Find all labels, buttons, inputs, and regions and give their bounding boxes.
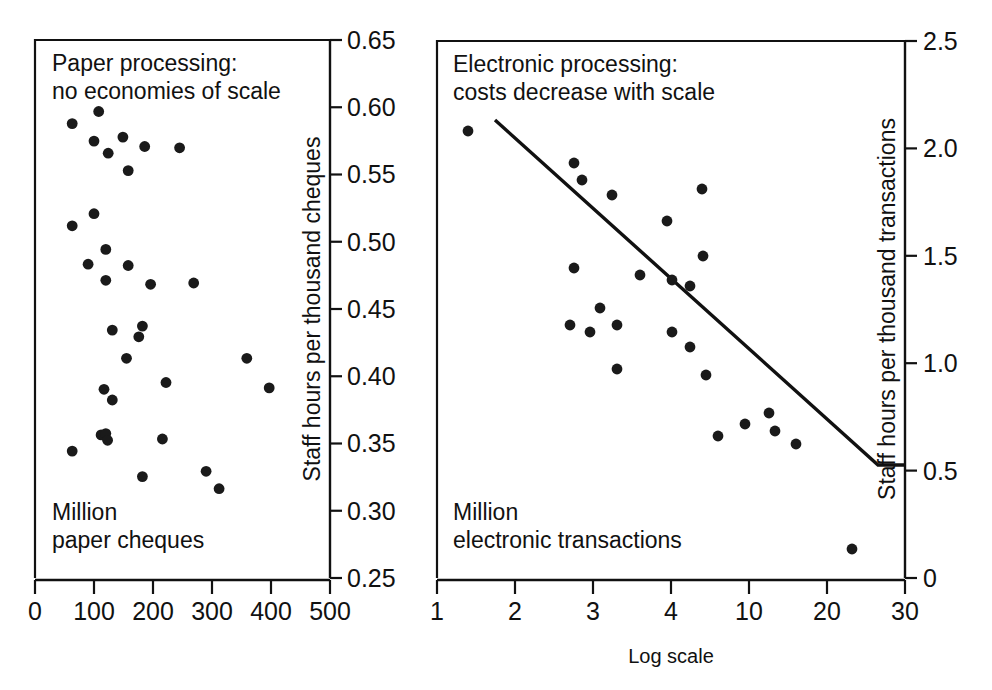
- right-y-tick-label: 1.0: [923, 349, 958, 377]
- data-point: [67, 220, 78, 231]
- left-y-axis-title: Staff hours per thousand cheques: [299, 137, 325, 482]
- data-point: [107, 325, 118, 336]
- left-x-tick-label: 500: [309, 597, 351, 625]
- data-point: [764, 408, 775, 419]
- left-y-tick-label: 0.60: [347, 93, 396, 121]
- data-point: [847, 544, 858, 555]
- data-point: [161, 377, 172, 388]
- data-point: [241, 353, 252, 364]
- data-point: [121, 353, 132, 364]
- data-point: [264, 383, 275, 394]
- data-point: [67, 446, 78, 457]
- data-point: [569, 158, 580, 169]
- data-point: [83, 259, 94, 270]
- data-point: [89, 136, 100, 147]
- data-point: [188, 278, 199, 289]
- right-x-tick-label: 4: [664, 597, 678, 625]
- data-point: [133, 331, 144, 342]
- data-point: [118, 132, 129, 143]
- data-point: [201, 466, 212, 477]
- figure-x-axis-caption: Log scale: [628, 645, 714, 667]
- data-point: [107, 395, 118, 406]
- data-point: [123, 165, 134, 176]
- left-y-tick-label: 0.25: [347, 564, 396, 592]
- data-point: [685, 342, 696, 353]
- data-point: [100, 244, 111, 255]
- data-point: [791, 439, 802, 450]
- right-x-tick-label: 10: [735, 597, 763, 625]
- left-corner-note-line2: paper cheques: [52, 527, 204, 553]
- left-y-tick-label: 0.30: [347, 497, 396, 525]
- right-y-tick-label: 1.5: [923, 242, 958, 270]
- two-panel-scatter-figure: 0.65 0.60 0.55 0.50 0.45 0.40 0.35 0.30 …: [0, 0, 992, 690]
- left-y-tick-label: 0.50: [347, 228, 396, 256]
- data-point: [612, 364, 623, 375]
- left-x-tick-label: 400: [250, 597, 292, 625]
- right-corner-note-line1: Million: [453, 499, 518, 525]
- data-point: [607, 190, 618, 201]
- data-point: [145, 279, 156, 290]
- right-x-tick-label: 1: [430, 597, 444, 625]
- left-x-tick-label: 0: [28, 597, 42, 625]
- right-x-tick-label: 3: [586, 597, 600, 625]
- right-corner-note-line2: electronic transactions: [453, 527, 682, 553]
- data-point: [123, 260, 134, 271]
- left-x-tick-label: 300: [191, 597, 233, 625]
- right-y-tick-label: 0: [923, 564, 937, 592]
- data-point: [595, 303, 606, 314]
- figure-container: 0.65 0.60 0.55 0.50 0.45 0.40 0.35 0.30 …: [0, 0, 992, 690]
- data-point: [67, 118, 78, 129]
- right-y-axis-title: Staff hours per thousand transactions: [874, 118, 900, 500]
- right-x-tick-label: 2: [508, 597, 522, 625]
- data-point: [577, 175, 588, 186]
- data-point: [103, 148, 114, 159]
- left-panel-note-line1: Paper processing:: [52, 50, 237, 76]
- left-x-tick-label: 200: [132, 597, 174, 625]
- left-y-tick-label: 0.45: [347, 295, 396, 323]
- data-point: [698, 251, 709, 262]
- data-point: [102, 435, 113, 446]
- data-point: [667, 275, 678, 286]
- left-y-tick-label: 0.65: [347, 26, 396, 54]
- data-point: [463, 126, 474, 137]
- data-point: [214, 483, 225, 494]
- data-point: [137, 471, 148, 482]
- data-point: [635, 270, 646, 281]
- right-y-tick-label: 0.5: [923, 457, 958, 485]
- data-point: [100, 275, 111, 286]
- data-point: [89, 208, 100, 219]
- data-point: [685, 281, 696, 292]
- left-y-tick-label: 0.55: [347, 160, 396, 188]
- right-x-tick-label: 20: [813, 597, 841, 625]
- data-point: [697, 184, 708, 195]
- data-point: [701, 370, 712, 381]
- left-x-tick-label: 100: [73, 597, 115, 625]
- left-corner-note-line1: Million: [52, 499, 117, 525]
- right-x-tick-label: 30: [891, 597, 919, 625]
- data-point: [713, 431, 724, 442]
- data-point: [770, 426, 781, 437]
- left-panel-note-line2: no economies of scale: [52, 78, 281, 104]
- data-point: [565, 320, 576, 331]
- data-point: [569, 263, 580, 274]
- right-y-tick-label: 2.0: [923, 134, 958, 162]
- right-panel-note-line1: Electronic processing:: [453, 51, 678, 77]
- data-point: [585, 327, 596, 338]
- left-y-tick-label: 0.35: [347, 429, 396, 457]
- right-y-tick-label: 2.5: [923, 27, 958, 55]
- right-panel-note-line2: costs decrease with scale: [453, 79, 715, 105]
- data-point: [157, 434, 168, 445]
- data-point: [139, 141, 150, 152]
- data-point: [662, 216, 673, 227]
- left-y-tick-label: 0.40: [347, 362, 396, 390]
- data-point: [174, 142, 185, 153]
- data-point: [137, 321, 148, 332]
- data-point: [667, 327, 678, 338]
- data-point: [93, 106, 104, 117]
- data-point: [99, 384, 110, 395]
- data-point: [740, 419, 751, 430]
- data-point: [612, 320, 623, 331]
